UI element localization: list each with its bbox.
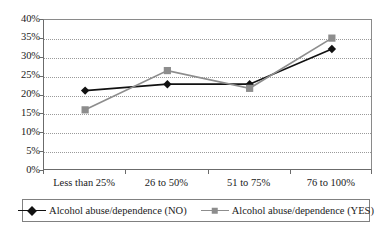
line-chart: 0%5%10%15%20%25%30%35%40% Less than 25%2… (0, 0, 392, 243)
legend-line-no (18, 206, 46, 216)
y-axis-tick-label: 20% (0, 89, 40, 100)
x-axis-tick (43, 170, 44, 174)
x-axis-tick-label: Less than 25% (53, 176, 115, 189)
y-axis-tick-label: 30% (0, 51, 40, 62)
chart-legend: Alcohol abuse/dependence (NO) Alcohol ab… (22, 199, 370, 222)
y-axis-tick (39, 19, 44, 20)
y-axis: 0%5%10%15%20%25%30%35%40% (0, 0, 40, 189)
series-line (85, 49, 332, 91)
diamond-marker-icon (81, 86, 89, 94)
y-axis-tick (39, 38, 44, 39)
x-axis-tick-label: 76 to 100% (307, 176, 355, 189)
square-marker-icon (164, 67, 171, 74)
y-axis-tick-label: 15% (0, 108, 40, 119)
x-axis-tick-label: 51 to 75% (227, 176, 270, 189)
y-axis-tick (39, 113, 44, 114)
legend-item-yes[interactable]: Alcohol abuse/dependence (YES) (201, 205, 374, 217)
legend-label-no: Alcohol abuse/dependence (NO) (49, 205, 187, 217)
square-marker-icon (328, 35, 335, 42)
y-axis-tick-label: 0% (0, 165, 40, 176)
square-marker-icon (82, 106, 89, 113)
y-axis-tick-label: 40% (0, 14, 40, 25)
series-line (85, 38, 332, 110)
x-axis-tick (371, 170, 372, 174)
square-marker-icon (211, 207, 218, 214)
diamond-marker-icon (27, 206, 37, 216)
y-axis-tick (39, 57, 44, 58)
legend-line-yes (201, 206, 229, 216)
diamond-marker-icon (163, 80, 171, 88)
x-axis-tick-label: 26 to 50% (145, 176, 188, 189)
legend-item-no[interactable]: Alcohol abuse/dependence (NO) (18, 205, 187, 217)
square-marker-icon (246, 85, 253, 92)
x-axis-labels: Less than 25%26 to 50%51 to 75%76 to 100… (43, 176, 372, 192)
y-axis-tick (39, 76, 44, 77)
diamond-marker-icon (328, 45, 336, 53)
y-axis-tick-label: 35% (0, 32, 40, 43)
x-axis-tick (125, 170, 126, 174)
series-layer (44, 20, 373, 171)
y-axis-tick-label: 10% (0, 127, 40, 138)
plot-area (43, 19, 372, 170)
y-axis-tick-label: 25% (0, 70, 40, 81)
y-axis-tick-label: 5% (0, 146, 40, 157)
y-axis-tick (39, 132, 44, 133)
legend-label-yes: Alcohol abuse/dependence (YES) (232, 205, 374, 217)
x-axis-tick (208, 170, 209, 174)
y-axis-tick (39, 95, 44, 96)
y-axis-tick (39, 151, 44, 152)
x-axis-tick (290, 170, 291, 174)
